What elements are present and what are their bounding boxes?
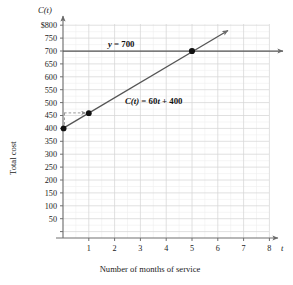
y-tick-label-800: $800: [41, 21, 57, 30]
y-tick-label-400: 400: [45, 124, 57, 133]
x-tick-label-1: 1: [87, 244, 91, 253]
y-tick-label-150: 150: [45, 189, 57, 198]
x-tick-label-5: 5: [190, 244, 194, 253]
y-tick-label-200: 200: [45, 176, 57, 185]
x-axis-variable-label: t: [281, 243, 284, 253]
annotation-y-700: y = 700: [107, 39, 135, 49]
y-tick-label-300: 300: [45, 150, 57, 159]
x-tick-label-2: 2: [113, 244, 117, 253]
y-axis-variable-label: C(t): [38, 5, 52, 15]
chart-figure: $800 750 700 650 600 550 500 450 400 350…: [0, 0, 293, 285]
annotation-cost-fn: C(t): [125, 96, 139, 106]
y-tick-label-250: 250: [45, 163, 57, 172]
x-axis-title: Number of months of service: [100, 264, 201, 274]
cost-vs-months-line-chart: $800 750 700 650 600 550 500 450 400 350…: [0, 0, 293, 285]
point-y-intercept: [61, 125, 67, 131]
y-tick-label-750: 750: [45, 34, 57, 43]
grid-major: [63, 24, 269, 238]
x-tick-label-3: 3: [138, 244, 142, 253]
y-tick-label-650: 650: [45, 60, 57, 69]
y-tick-label-450: 450: [45, 111, 57, 120]
annotation-cost-tail: + 400: [160, 96, 183, 106]
y-tick-label-600: 600: [45, 73, 57, 82]
x-tick-label-6: 6: [216, 244, 220, 253]
point-one-month: [86, 110, 92, 116]
y-axis-title: Total cost: [8, 141, 18, 175]
y-tick-label-550: 550: [45, 86, 57, 95]
x-tick-label-7: 7: [242, 244, 246, 253]
point-intersection: [189, 48, 195, 54]
annotation-cost-equation: C(t) = 60t + 400: [125, 96, 183, 106]
annotation-y-700-tail: = 700: [112, 39, 135, 49]
y-tick-label-350: 350: [45, 137, 57, 146]
y-tick-label-500: 500: [45, 99, 57, 108]
y-tick-label-50: 50: [49, 215, 57, 224]
annotation-cost-eq: = 60: [139, 96, 158, 106]
y-tick-label-100: 100: [45, 202, 57, 211]
y-tick-label-700: 700: [45, 47, 57, 56]
x-tick-label-4: 4: [164, 244, 168, 253]
x-tick-label-8: 8: [267, 244, 271, 253]
